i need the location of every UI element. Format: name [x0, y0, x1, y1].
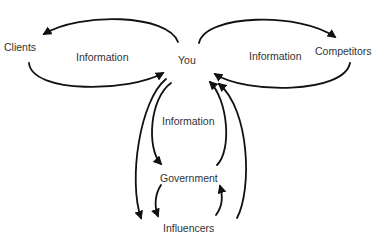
edge-label-clients-information: Information — [76, 51, 129, 63]
arrow-government-to-influencers — [156, 185, 161, 216]
arrow-you-to-influencers — [136, 79, 166, 218]
node-influencers: Influencers — [163, 222, 214, 234]
node-competitors: Competitors — [315, 45, 372, 57]
arrow-influencers-to-government — [216, 186, 222, 215]
information-flow-diagram: Clients Information You Information Comp… — [0, 0, 384, 241]
edge-label-vertical-information: Information — [162, 115, 215, 127]
node-government: Government — [160, 172, 218, 184]
arrow-competitors-to-you — [215, 63, 350, 88]
arrow-you-to-competitors — [199, 20, 335, 43]
edge-label-competitors-information: Information — [249, 50, 302, 62]
node-you: You — [178, 54, 196, 66]
arrow-you-to-clients — [44, 19, 178, 42]
node-clients: Clients — [4, 41, 36, 53]
arrow-influencers-to-you — [219, 84, 246, 218]
arrow-clients-to-you — [29, 63, 163, 87]
